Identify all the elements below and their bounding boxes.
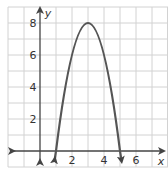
parabola-graph: 2 4 6 2 4 6 8 x y	[0, 0, 168, 172]
y-tick-8: 8	[30, 17, 37, 30]
y-tick-4: 4	[30, 81, 37, 94]
y-axis-label: y	[44, 7, 52, 20]
x-tick-2: 2	[69, 154, 76, 167]
y-tick-2: 2	[30, 113, 37, 126]
x-tick-4: 4	[101, 154, 108, 167]
x-tick-6: 6	[133, 154, 140, 167]
x-axis-label: x	[157, 155, 165, 168]
y-tick-6: 6	[30, 49, 37, 62]
